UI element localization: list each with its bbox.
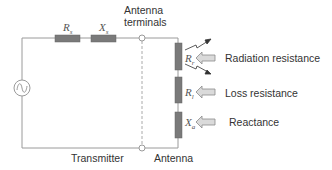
antenna-label: Antenna <box>154 152 193 164</box>
transmitter-label: Transmitter <box>71 152 124 164</box>
radiation-resistance-label: Radiation resistance <box>225 52 320 64</box>
block-arrows <box>196 52 215 128</box>
resistor-rr-icon <box>175 43 182 70</box>
resistor-rl-icon <box>175 77 182 103</box>
arrow-xa-icon <box>196 116 215 128</box>
terminal-top-icon <box>139 35 145 41</box>
symbol-xa: Xa <box>185 116 195 133</box>
ac-source-icon <box>14 80 30 96</box>
symbol-xs: Xs <box>99 21 108 38</box>
arrow-rl-icon <box>196 86 215 98</box>
reactance-label: Reactance <box>229 116 279 128</box>
antenna-terminals-label-line2: terminals <box>124 16 167 28</box>
symbol-rs: Rs <box>63 21 72 38</box>
symbol-rr: Rr <box>185 52 194 69</box>
antenna-terminals-label-line1: Antenna <box>124 4 163 16</box>
terminal-bottom-icon <box>139 145 145 151</box>
reactance-xa-icon <box>175 112 182 138</box>
loss-resistance-label: Loss resistance <box>225 87 298 99</box>
symbol-rl: Rl <box>185 86 194 103</box>
arrow-rr-icon <box>196 52 215 64</box>
wires <box>22 38 178 148</box>
